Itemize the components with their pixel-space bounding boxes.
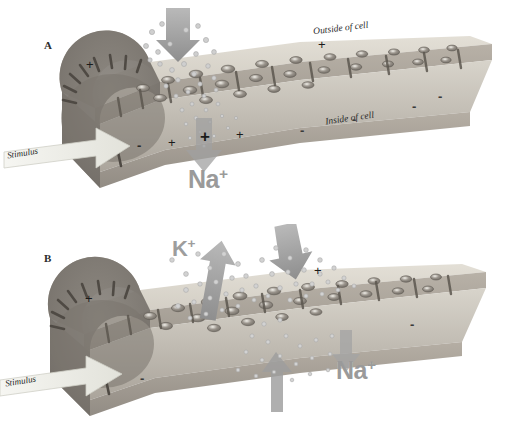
ion-channels-top-b [144,274,442,332]
potassium-efflux-arrow-b [190,238,239,323]
charge-plus-outside-b-1: + [85,292,93,305]
figure-canvas: A Outside of cell Inside of cell Stimulu… [0,0,507,448]
panel-a: A Outside of cell Inside of cell Stimulu… [0,0,507,224]
charge-plus-outside-a-1: + [86,58,94,71]
charge-plus-outside-a-2: + [318,38,326,51]
ion-label-potassium-b: K+ [172,236,195,262]
sodium-influx-arrow-a [156,8,200,62]
charge-minus-inside-a-1: - [137,139,141,152]
membrane-edge-channels-b [106,276,451,342]
ion-label-sodium-a: Na+ [188,165,228,194]
charge-minus-inside-a-5: - [438,90,442,103]
membrane-edge-channels-a [118,50,461,116]
membrane-slab-a [62,36,492,188]
cut-end-channels-a [63,55,141,166]
sodium-ion-dots-a [144,22,238,148]
charge-minus-inside-b-2: - [410,318,414,331]
axon-cut-end-a [60,31,165,188]
charge-plus-inside-a-3: + [236,128,244,141]
charge-minus-inside-b-1: - [140,372,144,385]
panel-b-illustration [0,224,507,448]
sodium-influx-arrow-b [263,224,318,284]
charge-minus-inside-a-2: - [300,124,304,137]
panel-a-illustration [0,0,507,224]
axon-cut-end-b [48,257,154,416]
charge-minus-inside-a-4: - [412,100,416,113]
charge-plus-inside-a-2: + [200,128,210,145]
sodium-inward-arrow-b [262,352,292,412]
panel-b: B Stimulus K+ Na+ + + - - [0,224,507,448]
charge-plus-outside-b-2: + [314,264,322,277]
ion-channels-top-a [137,45,458,104]
ion-label-sodium-b: Na+ [336,356,376,385]
panel-a-letter: A [44,39,52,51]
membrane-slab-b [50,264,486,416]
charge-minus-inside-a-3: - [352,113,356,126]
panel-b-letter: B [44,252,52,264]
charge-plus-inside-a-1: + [168,136,176,149]
